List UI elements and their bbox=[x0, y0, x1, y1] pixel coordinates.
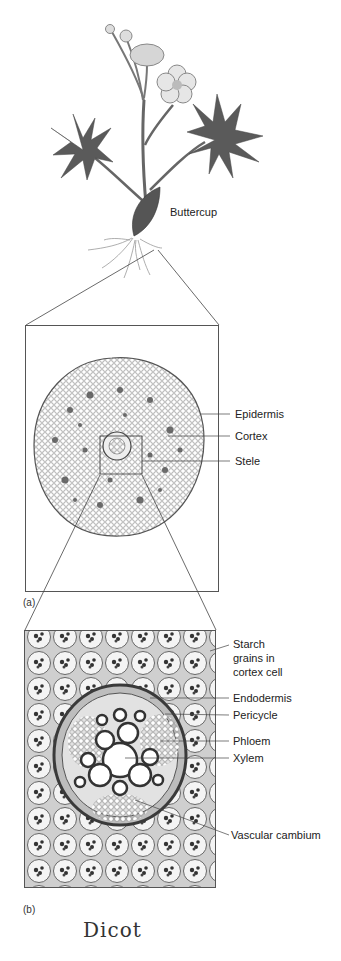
root-cross-section bbox=[34, 358, 204, 536]
label-phloem: Phloem bbox=[233, 735, 270, 748]
label-pericycle: Pericycle bbox=[233, 709, 278, 722]
label-cortex: Cortex bbox=[235, 430, 267, 443]
plant-label: Buttercup bbox=[170, 206, 217, 219]
label-vascular-cambium: Vascular cambium bbox=[231, 829, 321, 842]
label-starch-line1: Starch bbox=[233, 638, 265, 651]
label-endodermis: Endodermis bbox=[233, 692, 292, 705]
label-starch-line2: grains in bbox=[233, 652, 275, 665]
label-starch-line3: cortex cell bbox=[233, 666, 283, 679]
figure-graphics bbox=[0, 0, 341, 961]
handwritten-annotation: Dicot bbox=[83, 918, 142, 942]
label-epidermis: Epidermis bbox=[235, 408, 284, 421]
label-xylem: Xylem bbox=[233, 752, 264, 765]
buttercup-plant-illustration bbox=[51, 25, 263, 279]
panel-b-tag: (b) bbox=[23, 904, 35, 915]
label-stele: Stele bbox=[235, 455, 260, 468]
panel-a-tag: (a) bbox=[23, 597, 35, 608]
stele-micrograph bbox=[24, 630, 216, 888]
